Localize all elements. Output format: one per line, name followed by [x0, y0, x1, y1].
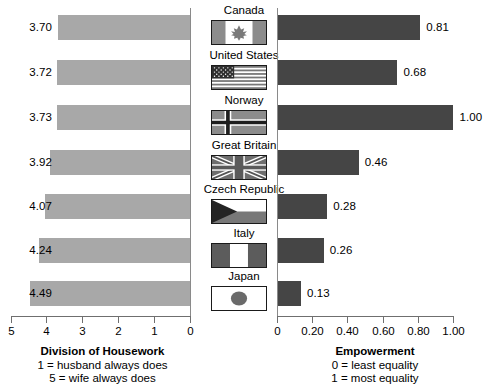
right-value-czech-republic: 0.28 — [333, 200, 356, 212]
right-bar-norway — [278, 105, 453, 130]
left-value-canada: 3.70 — [0, 21, 52, 33]
right-value-great-britain: 0.46 — [365, 156, 388, 168]
right-tick-100 — [453, 316, 454, 323]
right-tick-label-020: 0.20 — [295, 325, 330, 337]
left-value-great-britain: 3.92 — [0, 156, 52, 168]
left-tick-label-2: 2 — [107, 325, 130, 337]
left-value-czech-republic: 4.07 — [0, 200, 52, 212]
right-tick-020 — [312, 316, 313, 323]
left-bar-czech-republic — [45, 194, 191, 219]
left-axis-baseline — [11, 316, 191, 317]
czech-republic-flag-icon — [211, 199, 267, 224]
right-tick-label-040: 0.40 — [330, 325, 365, 337]
left-bar-united-states — [57, 60, 190, 85]
canada-flag-icon — [211, 20, 267, 45]
right-bar-great-britain — [278, 150, 359, 175]
right-tick-080 — [418, 316, 419, 323]
great-britain-flag-icon — [211, 155, 267, 180]
left-tick-5 — [11, 316, 12, 323]
right-tick-0 — [277, 316, 278, 323]
right-axis-sublabel-2: 1 = most equality — [295, 372, 455, 384]
left-bar-canada — [58, 15, 190, 40]
united-states-flag-icon — [211, 65, 267, 90]
right-axis-baseline — [277, 316, 453, 317]
right-value-norway: 1.00 — [460, 111, 483, 123]
right-tick-040 — [347, 316, 348, 323]
left-tick-3 — [82, 316, 83, 323]
left-value-united-states: 3.72 — [0, 66, 52, 78]
left-tick-label-1: 1 — [143, 325, 166, 337]
left-tick-label-0: 0 — [179, 325, 202, 337]
right-axis-title: Empowerment — [295, 345, 455, 357]
right-value-japan: 0.13 — [307, 287, 330, 299]
right-bar-canada — [278, 15, 420, 40]
left-axis-sublabel-2: 5 = wife always does — [20, 372, 185, 384]
left-bar-norway — [57, 105, 191, 130]
left-tick-label-3: 3 — [71, 325, 94, 337]
left-value-japan: 4.49 — [0, 287, 52, 299]
left-axis-title: Division of Housework — [20, 345, 185, 357]
right-value-italy: 0.26 — [330, 244, 353, 256]
right-tick-label-060: 0.60 — [366, 325, 401, 337]
right-bar-czech-republic — [278, 194, 327, 219]
right-tick-label-0: 0 — [266, 325, 289, 337]
right-bar-united-states — [278, 60, 397, 85]
left-tick-0 — [190, 316, 191, 323]
right-axis-sublabel-1: 0 = least equality — [295, 359, 455, 371]
left-bar-japan — [30, 281, 191, 306]
left-tick-1 — [154, 316, 155, 323]
norway-flag-icon — [211, 110, 267, 135]
left-bar-italy — [39, 238, 191, 263]
right-tick-060 — [383, 316, 384, 323]
right-bar-japan — [278, 281, 301, 306]
left-tick-4 — [46, 316, 47, 323]
left-tick-label-4: 4 — [35, 325, 58, 337]
right-value-united-states: 0.68 — [403, 66, 426, 78]
italy-flag-icon — [211, 243, 267, 268]
left-value-norway: 3.73 — [0, 111, 52, 123]
left-value-italy: 4.24 — [0, 244, 52, 256]
right-tick-label-080: 0.80 — [401, 325, 436, 337]
japan-flag-icon — [211, 286, 267, 311]
right-bar-italy — [278, 238, 324, 263]
chart-figure: 3.70 3.72 3.73 3.92 4.07 4.24 4.49 5 4 3… — [0, 0, 493, 384]
right-value-canada: 0.81 — [426, 21, 449, 33]
left-axis-sublabel-1: 1 = husband always does — [20, 359, 185, 371]
left-tick-label-5: 5 — [0, 325, 23, 337]
left-tick-2 — [118, 316, 119, 323]
left-bar-great-britain — [50, 150, 190, 175]
right-tick-label-100: 1.00 — [436, 325, 471, 337]
